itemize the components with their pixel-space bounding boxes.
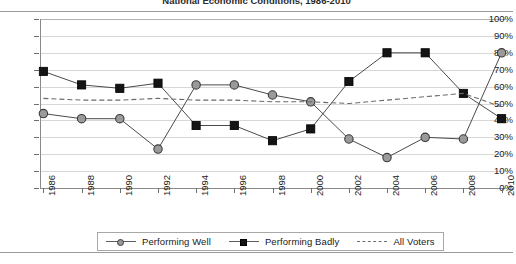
data-point-marker: [383, 153, 391, 161]
data-point-marker: [345, 77, 353, 85]
data-point-marker: [39, 109, 47, 117]
gray-circle-line-marker-icon: [106, 237, 136, 247]
legend-label-performing-well: Performing Well: [142, 236, 211, 247]
data-point-marker: [116, 115, 124, 123]
data-point-marker: [230, 81, 238, 89]
legend-item-performing-well: Performing Well: [106, 236, 211, 247]
data-point-marker: [421, 133, 429, 141]
legend-label-all-voters: All Voters: [393, 236, 434, 247]
data-point-marker: [192, 81, 200, 89]
data-point-marker: [192, 121, 200, 129]
data-point-marker: [498, 115, 506, 123]
data-point-marker: [421, 49, 429, 57]
data-point-marker: [154, 79, 162, 87]
data-point-marker: [230, 121, 238, 129]
legend-item-all-voters: All Voters: [357, 236, 434, 247]
legend-item-performing-badly: Performing Badly: [229, 236, 339, 247]
data-point-marker: [268, 91, 276, 99]
data-point-marker: [497, 49, 505, 57]
legend-label-performing-badly: Performing Badly: [265, 236, 339, 247]
black-square-line-marker-icon: [229, 237, 259, 247]
data-point-marker: [39, 67, 47, 75]
data-point-marker: [459, 135, 467, 143]
data-point-marker: [116, 84, 124, 92]
data-point-marker: [345, 135, 353, 143]
data-point-marker: [383, 49, 391, 57]
data-point-marker: [78, 81, 86, 89]
data-point-marker: [268, 137, 276, 145]
data-point-marker: [307, 125, 315, 133]
data-point-marker: [77, 115, 85, 123]
data-point-marker: [154, 145, 162, 153]
dashed-line-marker-icon: [357, 237, 387, 247]
chart-legend: Performing Well Performing Badly All Vot…: [97, 232, 444, 251]
